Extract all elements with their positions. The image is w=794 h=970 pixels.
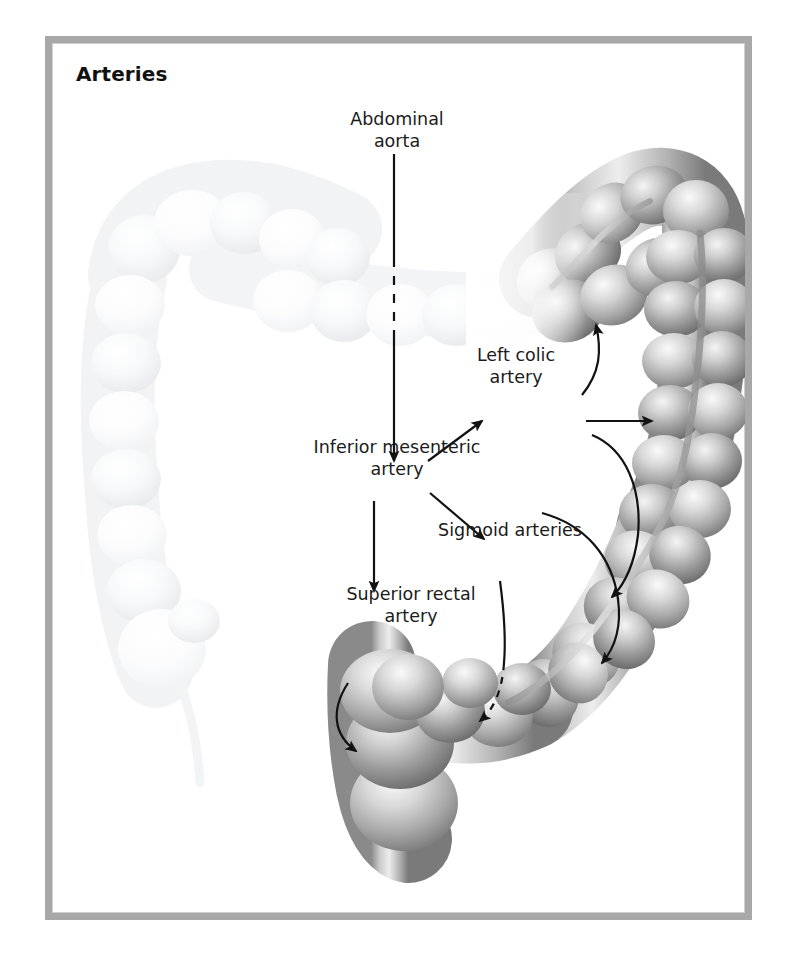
label-abdominal-aorta: Abdominal aorta: [332, 108, 462, 152]
shaded-colon-group: [340, 158, 745, 851]
label-sigmoid-arteries: Sigmoid arteries: [420, 519, 600, 541]
label-superior-rectal-artery: Superior rectal artery: [318, 583, 504, 627]
label-left-colic-artery: Left colic artery: [452, 344, 580, 388]
anatomical-figure: Arteries: [0, 0, 794, 970]
label-inferior-mesenteric-artery: Inferior mesenteric artery: [291, 436, 503, 480]
